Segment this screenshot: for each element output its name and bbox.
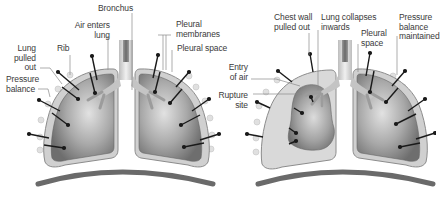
- label-pressure-balance: Pressure balance: [6, 75, 39, 94]
- intact-lung: [357, 74, 420, 161]
- label-air-enters-lung: Air enters lung: [70, 21, 110, 40]
- right-lung: [139, 74, 202, 161]
- label-pressure-balance-maintained: Pressure balance maintained: [399, 13, 440, 42]
- label-pleural-membranes: Pleural membranes: [176, 20, 220, 39]
- label-rib: Rib: [57, 44, 69, 54]
- label-lung-pulled-out: Lung pulled out: [0, 44, 36, 73]
- label-rupture-site: Rupture site: [214, 91, 248, 110]
- label-pleural-space-pneumothorax: Pleural space: [361, 29, 387, 48]
- panel-pneumothorax: [246, 30, 436, 184]
- diaphragm-left: [38, 172, 213, 184]
- diaphragm-right: [258, 172, 433, 184]
- label-pleural-space-normal: Pleural space: [177, 44, 227, 54]
- label-entry-of-air: Entry of air: [218, 63, 248, 82]
- label-bronchus: Bronchus: [98, 4, 133, 14]
- label-chest-wall-pulled-out: Chest wall pulled out: [274, 13, 312, 32]
